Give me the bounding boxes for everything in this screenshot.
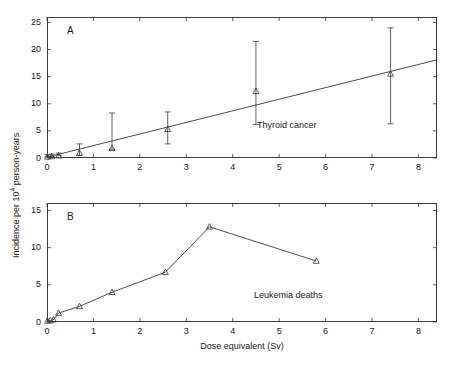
series-label: Leukemia deaths [254,290,323,300]
x-tick-label: 6 [306,163,346,172]
x-tick-label: 3 [166,163,206,172]
x-tick-label: 7 [352,327,392,336]
panel-letter: A [67,25,74,36]
x-tick-label: 8 [398,163,438,172]
x-tick-label: 6 [306,327,346,336]
x-tick-label: 1 [73,327,113,336]
x-tick-label: 2 [120,327,160,336]
x-axis-title: Dose equivalent (Sv) [182,341,302,351]
series-line [47,227,316,321]
x-tick-label: 8 [398,327,438,336]
y-tick-label: 10 [13,243,41,252]
x-tick-label: 2 [120,163,160,172]
y-tick-label: 10 [13,99,41,108]
y-tick-label: 5 [13,126,41,135]
panel-letter: B [67,211,74,222]
y-tick-label: 0 [13,318,41,327]
x-tick-label: 4 [213,327,253,336]
x-tick-label: 5 [259,163,299,172]
x-tick-label: 4 [213,163,253,172]
x-tick-label: 7 [352,163,392,172]
y-tick-label: 15 [13,206,41,215]
x-tick-label: 1 [73,163,113,172]
y-axis-title-exponent: 4 [9,188,16,192]
fit-line [47,60,437,157]
figure-root: Incidence per 104 person-years Dose equi… [0,0,457,368]
y-tick-label: 5 [13,280,41,289]
x-tick-label: 0 [27,327,67,336]
x-tick-label: 5 [259,327,299,336]
series-label: Thyroid cancer [257,120,317,130]
x-tick-label: 0 [27,163,67,172]
y-tick-label: 20 [13,45,41,54]
panel-b-leukemia-deaths [47,203,437,322]
y-tick-label: 0 [13,154,41,163]
plot-canvas [47,17,437,158]
panel-a-thyroid-cancer [47,17,437,158]
plot-canvas [47,203,437,322]
y-axis-title: Incidence per 104 person-years [9,133,21,258]
y-tick-label: 25 [13,18,41,27]
y-tick-label: 15 [13,72,41,81]
x-tick-label: 3 [166,327,206,336]
